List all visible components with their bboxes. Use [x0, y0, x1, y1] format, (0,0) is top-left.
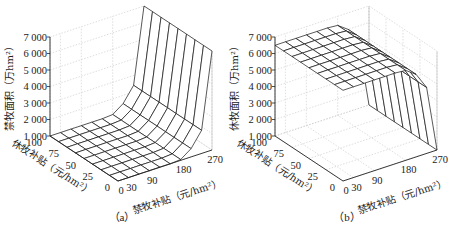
z-axis-ticks: 1 0002 0003 0004 0005 0006 0007 000	[248, 32, 275, 142]
x-tick-label: 30	[351, 182, 362, 193]
x-tick-label: 90	[147, 175, 158, 186]
z-tick-label: 5 000	[248, 65, 272, 76]
x-axis-label: 禁牧补贴（元/hm²）	[131, 176, 223, 216]
y-tick-label: 25	[308, 171, 319, 182]
z-tick-label: 4 000	[248, 81, 272, 92]
x-tick-label: 0	[343, 185, 348, 196]
surface-plot-a: 1 0002 0003 0004 0005 0006 0007 00002550…	[0, 0, 225, 230]
x-tick-label: 180	[176, 164, 192, 175]
x-tick-label: 90	[372, 175, 383, 186]
surface-mesh	[275, 25, 437, 150]
surface-plot-b: 1 0002 0003 0004 0005 0006 0007 00002550…	[225, 0, 450, 230]
y-tick-label: 25	[83, 171, 94, 182]
chart-panel-a: 1 0002 0003 0004 0005 0006 0007 00002550…	[0, 0, 225, 230]
panel-caption: （b）	[333, 211, 361, 223]
z-tick-label: 6 000	[248, 48, 272, 59]
surface-mesh	[50, 6, 212, 181]
z-axis-label: 休牧面积（万hm²）	[228, 41, 240, 131]
z-tick-label: 4 000	[23, 81, 47, 92]
y-tick-label: 50	[291, 160, 302, 171]
y-tick-label: 50	[66, 160, 77, 171]
z-tick-label: 6 000	[23, 48, 47, 59]
chart-panel-b: 1 0002 0003 0004 0005 0006 0007 00002550…	[225, 0, 450, 230]
y-tick-label: 75	[274, 148, 285, 159]
x-tick-label: 180	[401, 164, 417, 175]
z-tick-label: 2 000	[23, 114, 47, 125]
x-tick-label: 0	[118, 185, 123, 196]
x-tick-label: 270	[207, 154, 223, 165]
z-tick-label: 7 000	[23, 32, 47, 43]
x-axis-label: 禁牧补贴（元/hm²）	[356, 176, 448, 216]
y-axis-label: 休牧补贴（元/hm²）	[235, 136, 320, 197]
x-tick-label: 270	[432, 154, 448, 165]
x-tick-label: 30	[126, 182, 137, 193]
panel-caption: （a）	[109, 211, 136, 223]
z-tick-label: 7 000	[248, 32, 272, 43]
z-tick-label: 2 000	[248, 114, 272, 125]
y-tick-label: 75	[49, 148, 60, 159]
z-tick-label: 3 000	[23, 98, 47, 109]
z-tick-label: 5 000	[23, 65, 47, 76]
z-axis-ticks: 1 0002 0003 0004 0005 0006 0007 000	[23, 32, 50, 142]
z-axis-label: 禁牧面积（万hm²）	[3, 41, 15, 131]
y-tick-label: 0	[105, 182, 110, 193]
y-tick-label: 0	[330, 182, 335, 193]
z-tick-label: 3 000	[248, 98, 272, 109]
